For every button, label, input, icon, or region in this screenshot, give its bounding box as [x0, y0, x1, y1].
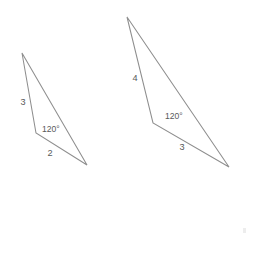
- page-speck-artifact: [243, 228, 246, 233]
- right-triangle-angle-label: 120°: [165, 111, 183, 121]
- right-triangle-side-b-label: 3: [179, 142, 184, 152]
- right-triangle-side-a-label: 4: [132, 73, 137, 83]
- geometry-figure-canvas: 3 120° 2 4 120° 3: [0, 0, 262, 256]
- triangles-diagram: 3 120° 2 4 120° 3: [0, 0, 262, 256]
- left-triangle-side-b-label: 2: [47, 148, 52, 158]
- left-triangle-group: 3 120° 2: [20, 53, 87, 165]
- right-triangle-outline: [127, 17, 229, 167]
- right-triangle-group: 4 120° 3: [127, 17, 229, 167]
- left-triangle-angle-label: 120°: [42, 124, 60, 134]
- left-triangle-side-a-label: 3: [20, 97, 25, 107]
- left-triangle-outline: [22, 53, 87, 165]
